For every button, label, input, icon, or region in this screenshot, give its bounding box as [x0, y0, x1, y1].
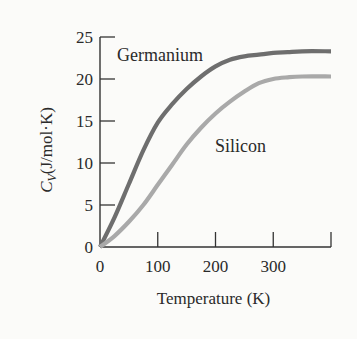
x-tick-label: 200: [203, 257, 229, 276]
x-tick-label: 300: [261, 257, 287, 276]
x-axis-title: Temperature (K): [157, 289, 271, 308]
y-tick-label: 10: [76, 154, 93, 173]
x-tick-label: 0: [96, 257, 105, 276]
chart: 05101520250100200300 Temperature (K)CV(J…: [0, 0, 357, 339]
y-tick-label: 25: [76, 28, 93, 47]
y-tick-label: 20: [76, 70, 93, 89]
y-tick-label: 5: [85, 196, 94, 215]
label-silicon: Silicon: [215, 136, 266, 156]
x-tick-label: 100: [145, 257, 171, 276]
y-tick-label: 0: [85, 238, 94, 257]
series-line-silicon: [100, 76, 331, 247]
y-axis-title: CV(J/mol·K): [37, 107, 59, 193]
label-germanium: Germanium: [117, 45, 203, 65]
y-tick-label: 15: [76, 112, 93, 131]
